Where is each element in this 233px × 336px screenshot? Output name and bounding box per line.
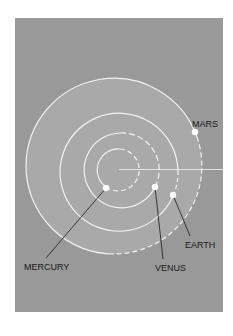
- mars-orbit-disk: [26, 78, 202, 254]
- mercury-planet-icon: [103, 185, 109, 191]
- earth-label: EARTH: [185, 240, 215, 250]
- earth-planet-icon: [170, 192, 176, 198]
- venus-planet-icon: [152, 184, 158, 190]
- mars-planet-icon: [192, 129, 198, 135]
- mars-label: MARS: [192, 119, 218, 129]
- orbits-diagram: MARS EARTH VENUS MERCURY: [0, 0, 233, 336]
- venus-label: VENUS: [155, 263, 186, 273]
- solar-orbits-figure: MARS EARTH VENUS MERCURY: [0, 0, 233, 336]
- mercury-label: MERCURY: [24, 262, 69, 272]
